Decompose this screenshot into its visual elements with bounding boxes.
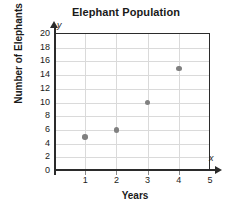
- x-tick-label: 3: [141, 175, 155, 185]
- gridline-horizontal: [54, 116, 209, 117]
- y-tick-label: 20: [34, 29, 50, 38]
- y-tick-label: 0: [34, 166, 50, 175]
- x-tick-labels: 12345: [54, 175, 217, 189]
- gridline-horizontal: [54, 144, 209, 145]
- y-tick-label: 14: [34, 70, 50, 79]
- y-axis-title: Number of Elephants: [13, 0, 24, 124]
- x-tick-mark: [116, 171, 117, 175]
- y-tick-label: 10: [34, 98, 50, 107]
- gridline-horizontal: [54, 61, 209, 62]
- data-point: [114, 127, 120, 133]
- gridline-vertical: [116, 34, 117, 170]
- x-tick-mark: [148, 171, 149, 175]
- y-axis-line: [54, 28, 56, 175]
- x-tick-label: 1: [78, 175, 92, 185]
- data-point: [82, 134, 88, 140]
- chart-title: Elephant Population: [0, 6, 252, 18]
- gridline-horizontal: [54, 48, 209, 49]
- data-point: [176, 66, 182, 72]
- x-tick-mark: [179, 171, 180, 175]
- y-tick-label: 8: [34, 111, 50, 120]
- plot-area: [54, 33, 210, 170]
- gridline-horizontal: [54, 157, 209, 158]
- y-tick-label: 4: [34, 139, 50, 148]
- x-tick-label: 2: [109, 175, 123, 185]
- x-tick-label: 4: [172, 175, 186, 185]
- x-tick-label: 5: [203, 175, 217, 185]
- x-axis-letter: x: [209, 153, 214, 163]
- x-tick-marks: [54, 171, 217, 176]
- x-tick-mark: [85, 171, 86, 175]
- gridline-horizontal: [54, 103, 209, 104]
- gridline-horizontal: [54, 89, 209, 90]
- y-tick-label: 16: [34, 56, 50, 65]
- gridline-vertical: [85, 34, 86, 170]
- x-axis-title: Years: [55, 190, 215, 201]
- gridline-vertical: [179, 34, 180, 170]
- y-tick-label: 18: [34, 43, 50, 52]
- y-tick-label: 6: [34, 125, 50, 134]
- gridline-horizontal: [54, 130, 209, 131]
- gridline-horizontal: [54, 75, 209, 76]
- y-axis-letter: y: [57, 20, 62, 30]
- y-tick-label: 2: [34, 152, 50, 161]
- data-point: [145, 100, 151, 106]
- elephant-population-chart: Elephant Population Number of Elephants …: [0, 0, 252, 215]
- y-tick-labels: 02468101214161820: [28, 33, 50, 170]
- y-tick-label: 12: [34, 84, 50, 93]
